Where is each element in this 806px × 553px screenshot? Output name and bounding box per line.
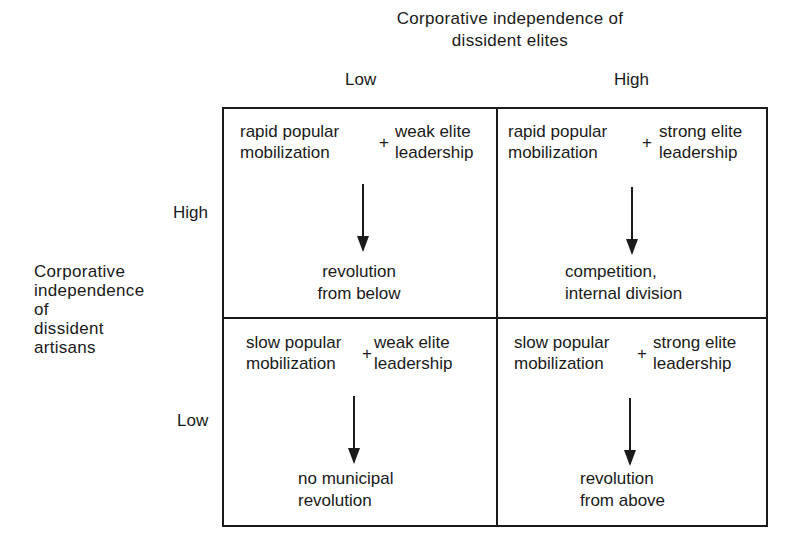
elite-leadership-label: weak elite leadership <box>395 121 473 163</box>
outcome-label: no municipal revolution <box>222 468 496 512</box>
condition-line: leadership <box>374 353 452 374</box>
condition-line: leadership <box>659 142 742 163</box>
popular-mobilization-label: rapid popular mobilization <box>508 121 607 163</box>
condition-line: weak elite <box>395 121 473 142</box>
outcome-label: competition, internal division <box>497 261 771 305</box>
condition-line: mobilization <box>508 142 607 163</box>
left-axis-title: Corporative independence of dissident ar… <box>34 262 144 357</box>
plus-icon: + <box>642 133 652 153</box>
left-axis-title-line: artisans <box>34 338 144 357</box>
outcome-line: revolution <box>222 490 496 512</box>
cell-bottom-left: slow popular mobilization + weak elite l… <box>222 318 496 528</box>
outcome-line: revolution <box>222 261 496 283</box>
outcome-line: from above <box>497 490 771 512</box>
cell-top-left: rapid popular mobilization + weak elite … <box>222 107 496 317</box>
arrow-down-icon <box>631 187 633 253</box>
plus-icon: + <box>637 344 647 364</box>
column-label-low: Low <box>345 70 376 90</box>
top-axis-title-line2: dissident elites <box>360 30 660 52</box>
popular-mobilization-label: slow popular mobilization <box>246 332 341 374</box>
outcome-label: revolution from above <box>497 468 771 512</box>
plus-icon: + <box>379 133 389 153</box>
popular-mobilization-label: rapid popular mobilization <box>240 121 339 163</box>
arrow-down-icon <box>629 398 631 464</box>
popular-mobilization-label: slow popular mobilization <box>514 332 609 374</box>
condition-line: mobilization <box>514 353 609 374</box>
elite-leadership-label: weak elite leadership <box>374 332 452 374</box>
column-label-high: High <box>614 70 649 90</box>
outcome-label: revolution from below <box>222 261 496 305</box>
top-axis-title: Corporative independence of dissident el… <box>360 8 660 52</box>
condition-line: strong elite <box>659 121 742 142</box>
row-label-low: Low <box>177 411 208 431</box>
left-axis-title-line: of <box>34 300 144 319</box>
cell-bottom-right: slow popular mobilization + strong elite… <box>497 318 771 528</box>
condition-line: slow popular <box>514 332 609 353</box>
left-axis-title-line: Corporative <box>34 262 144 281</box>
arrow-down-icon <box>353 396 355 462</box>
outcome-line: competition, <box>497 261 771 283</box>
condition-line: leadership <box>653 353 736 374</box>
condition-line: rapid popular <box>508 121 607 142</box>
row-label-high: High <box>173 203 208 223</box>
condition-line: rapid popular <box>240 121 339 142</box>
condition-line: mobilization <box>240 142 339 163</box>
top-axis-title-line1: Corporative independence of <box>360 8 660 30</box>
condition-line: slow popular <box>246 332 341 353</box>
outcome-line: no municipal <box>222 468 496 490</box>
elite-leadership-label: strong elite leadership <box>659 121 742 163</box>
left-axis-title-line: dissident <box>34 319 144 338</box>
condition-line: weak elite <box>374 332 452 353</box>
condition-line: strong elite <box>653 332 736 353</box>
outcome-line: from below <box>222 283 496 305</box>
outcome-line: revolution <box>497 468 771 490</box>
condition-line: leadership <box>395 142 473 163</box>
condition-line: mobilization <box>246 353 341 374</box>
left-axis-title-line: independence <box>34 281 144 300</box>
elite-leadership-label: strong elite leadership <box>653 332 736 374</box>
cell-top-right: rapid popular mobilization + strong elit… <box>497 107 771 317</box>
outcome-line: internal division <box>497 283 771 305</box>
arrow-down-icon <box>362 184 364 250</box>
plus-icon: + <box>362 344 372 364</box>
